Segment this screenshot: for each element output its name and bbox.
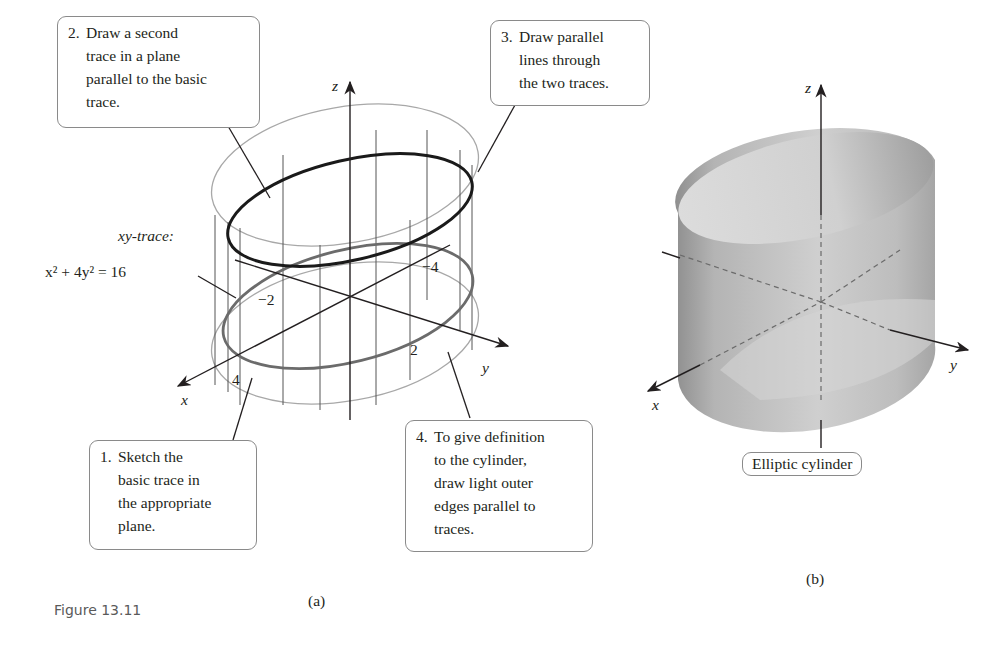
elliptic-cylinder-label: Elliptic cylinder bbox=[742, 452, 862, 476]
callout-text: To give definition to the cylinder, draw… bbox=[434, 425, 584, 540]
tick-x-neg2: −2 bbox=[258, 290, 275, 310]
axis-label-y-a: y bbox=[482, 358, 489, 378]
callout-number: 4. bbox=[416, 425, 428, 448]
tick-y-2: 2 bbox=[410, 340, 418, 360]
xy-trace-equation: x² + 4y² = 16 bbox=[45, 262, 126, 282]
callout-number: 2. bbox=[68, 21, 80, 44]
panel-a-label: (a) bbox=[308, 592, 325, 610]
axis-label-z-a: z bbox=[332, 76, 338, 96]
callout-number: 3. bbox=[501, 25, 513, 48]
figure-caption: Figure 13.11 bbox=[54, 602, 141, 618]
axis-label-y-b: y bbox=[950, 355, 957, 375]
callout-step-2: 2. Draw a second trace in a plane parall… bbox=[57, 16, 260, 128]
axis-label-z-b: z bbox=[805, 78, 811, 98]
callout-step-1: 1. Sketch the basic trace in the appropr… bbox=[89, 440, 257, 550]
tick-x-4: 4 bbox=[232, 370, 240, 390]
axis-label-x-a: x bbox=[181, 390, 188, 410]
callout-text: Draw a second trace in a plane parallel … bbox=[86, 21, 251, 113]
leader-lines bbox=[198, 105, 515, 440]
panel-b-diagram bbox=[648, 85, 968, 448]
xy-trace-label: xy-trace: bbox=[118, 226, 174, 246]
callout-step-4: 4. To give definition to the cylinder, d… bbox=[405, 420, 593, 552]
callout-number: 1. bbox=[100, 445, 112, 468]
callout-text: Draw parallel lines through the two trac… bbox=[519, 25, 641, 94]
callout-text: Sketch the basic trace in the appropriat… bbox=[118, 445, 248, 537]
tick-y-neg4: −4 bbox=[422, 257, 439, 277]
axis-label-x-b: x bbox=[652, 395, 659, 415]
callout-step-3: 3. Draw parallel lines through the two t… bbox=[490, 20, 650, 106]
panel-b-label: (b) bbox=[806, 570, 824, 588]
